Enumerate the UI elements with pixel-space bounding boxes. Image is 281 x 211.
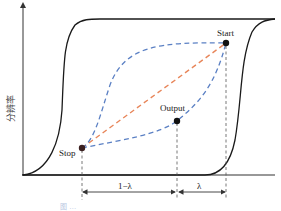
stop-label: Stop bbox=[59, 148, 76, 158]
hysteresis-diagram: Start Stop Output 1−λ λ 分辨率 图 … bbox=[0, 0, 281, 211]
y-axis-label: 分辨率 bbox=[5, 95, 16, 122]
left-segment-label: 1−λ bbox=[118, 181, 133, 191]
figure-caption: 图 … bbox=[60, 203, 76, 211]
output-point bbox=[174, 118, 180, 124]
guide-lines bbox=[82, 46, 226, 200]
stop-point bbox=[79, 145, 85, 151]
diagram-canvas: Start Stop Output 1−λ λ 分辨率 图 … bbox=[0, 0, 281, 211]
output-label: Output bbox=[160, 103, 186, 113]
start-label: Start bbox=[217, 28, 234, 38]
start-point bbox=[223, 40, 229, 46]
direct-path bbox=[82, 43, 226, 148]
right-segment-label: λ bbox=[197, 181, 202, 191]
